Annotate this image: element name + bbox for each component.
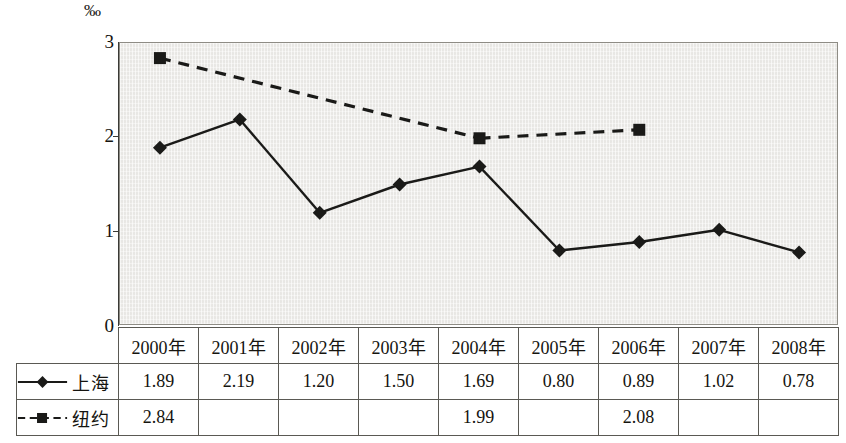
- y-tick-label-3: 3: [84, 32, 114, 51]
- cell-shanghai-2000: 1.89: [119, 364, 199, 400]
- legend-cell-shanghai: 上海: [17, 364, 119, 400]
- data-point-marker: [153, 141, 167, 155]
- data-point-marker: [393, 178, 407, 192]
- legend-label-shanghai: 上海: [72, 369, 109, 395]
- series-segment: [719, 230, 799, 253]
- column-header-2005: 2005年: [519, 328, 599, 364]
- table-corner-cell: [17, 328, 119, 364]
- data-point-marker: [154, 52, 166, 64]
- column-header-2008: 2008年: [759, 328, 839, 364]
- series-segment: [160, 119, 240, 147]
- cell-newyork-2008: [759, 400, 839, 436]
- series-segment: [480, 167, 560, 251]
- data-point-marker: [712, 223, 726, 237]
- data-table: 2000年 2001年 2002年 2003年 2004年 2005年 2006…: [16, 327, 839, 436]
- cell-newyork-2003: [359, 400, 439, 436]
- cell-shanghai-2001: 2.19: [199, 364, 279, 400]
- cell-shanghai-2008: 0.78: [759, 364, 839, 400]
- series-line-newyork: [154, 52, 645, 144]
- column-header-2001: 2001年: [199, 328, 279, 364]
- column-header-2003: 2003年: [359, 328, 439, 364]
- data-point-marker: [632, 235, 646, 249]
- cell-shanghai-2005: 0.80: [519, 364, 599, 400]
- column-header-2006: 2006年: [599, 328, 679, 364]
- series-segment: [320, 185, 400, 213]
- column-header-2000: 2000年: [119, 328, 199, 364]
- y-tick-label-1: 1: [84, 221, 114, 240]
- solid-line-diamond-marker-icon: [17, 374, 68, 390]
- line-chart-figure: ‰ 0 1 2 3 2000年 2001年 2002年 2003年 2004年: [0, 0, 846, 443]
- cell-shanghai-2004: 1.69: [439, 364, 519, 400]
- legend-cell-newyork: 纽约: [17, 400, 119, 436]
- series-segment: [559, 242, 639, 250]
- table-row-newyork: 纽约 2.84 1.99 2.08: [17, 400, 839, 436]
- column-header-2002: 2002年: [279, 328, 359, 364]
- series-segment: [160, 58, 480, 138]
- plot-series-svg: [120, 43, 839, 326]
- y-tick-label-2: 2: [84, 126, 114, 145]
- column-header-2004: 2004年: [439, 328, 519, 364]
- cell-newyork-2004: 1.99: [439, 400, 519, 436]
- cell-newyork-2006: 2.08: [599, 400, 679, 436]
- table-header-row: 2000年 2001年 2002年 2003年 2004年 2005年 2006…: [17, 328, 839, 364]
- series-segment: [400, 167, 480, 185]
- cell-shanghai-2007: 1.02: [679, 364, 759, 400]
- data-point-marker: [474, 132, 486, 144]
- plot-area: [119, 42, 838, 325]
- cell-newyork-2000: 2.84: [119, 400, 199, 436]
- data-point-marker: [633, 124, 645, 136]
- y-axis-unit-label: ‰: [84, 1, 101, 21]
- table-row-shanghai: 上海 1.89 2.19 1.20 1.50 1.69 0.80 0.89 1.…: [17, 364, 839, 400]
- column-header-2007: 2007年: [679, 328, 759, 364]
- series-segment: [639, 230, 719, 242]
- cell-newyork-2007: [679, 400, 759, 436]
- cell-shanghai-2006: 0.89: [599, 364, 679, 400]
- series-segment: [240, 119, 320, 212]
- cell-newyork-2002: [279, 400, 359, 436]
- legend-label-newyork: 纽约: [72, 405, 109, 431]
- cell-newyork-2001: [199, 400, 279, 436]
- cell-newyork-2005: [519, 400, 599, 436]
- dashed-line-square-marker-icon: [17, 410, 68, 426]
- series-segment: [480, 130, 640, 138]
- cell-shanghai-2002: 1.20: [279, 364, 359, 400]
- cell-shanghai-2003: 1.50: [359, 364, 439, 400]
- data-point-marker: [792, 245, 806, 259]
